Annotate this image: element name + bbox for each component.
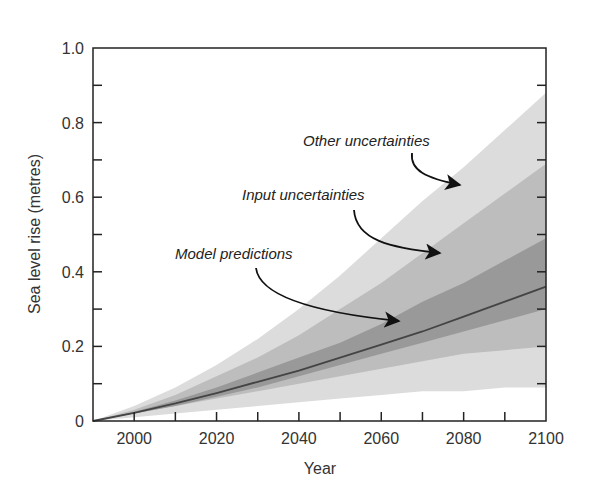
- y-tick-label: 0: [75, 413, 84, 430]
- x-tick-label: 2060: [363, 430, 399, 447]
- x-tick-label: 2100: [528, 430, 564, 447]
- x-tick-label: 2080: [446, 430, 482, 447]
- x-tick-label: 2000: [116, 430, 152, 447]
- x-tick-label: 2020: [199, 430, 235, 447]
- annotation-other-uncertainties: Other uncertainties: [303, 132, 460, 185]
- sea-level-rise-chart: 200020202040206020802100 00.20.40.60.81.…: [0, 0, 595, 501]
- annotation-label: Model predictions: [175, 245, 293, 262]
- x-axis-label: Year: [304, 460, 337, 477]
- annotation-label: Input uncertainties: [242, 186, 365, 203]
- y-tick-label: 0.4: [62, 264, 84, 281]
- annotation-label: Other uncertainties: [303, 132, 430, 149]
- y-tick-label: 0.8: [62, 115, 84, 132]
- y-tick-label: 1.0: [62, 40, 84, 57]
- x-axis-ticks: [134, 412, 505, 421]
- x-tick-label: 2040: [281, 430, 317, 447]
- x-axis-tick-labels: 200020202040206020802100: [116, 430, 564, 447]
- y-tick-label: 0.6: [62, 189, 84, 206]
- y-tick-label: 0.2: [62, 338, 84, 355]
- y-axis-label: Sea level rise (metres): [26, 154, 43, 314]
- y-axis-tick-labels: 00.20.40.60.81.0: [62, 40, 84, 430]
